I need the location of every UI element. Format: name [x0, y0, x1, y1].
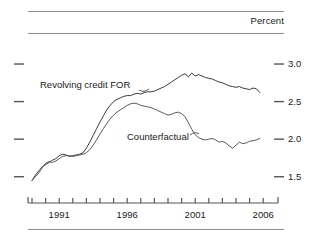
y-axis-tick-label: 3.0: [288, 59, 301, 69]
y-axis-right-ticks: [274, 64, 284, 177]
annotation-leader-lines: [139, 89, 199, 135]
y-axis-tick-label: 2.0: [288, 134, 301, 144]
y-axis-tick-label: 2.5: [288, 97, 301, 107]
x-axis-tick-label: 2006: [253, 210, 274, 220]
chart-figure: Percent 1.52.02.53.0 1991199620012006 Re…: [0, 0, 312, 244]
counterfactual-label: Counterfactual: [127, 131, 189, 142]
y-axis-tick-label: 1.5: [288, 172, 301, 182]
y-axis-left-ticks: [14, 64, 24, 177]
x-axis-tick-label: 1996: [117, 210, 138, 220]
footer-rule: [28, 229, 284, 230]
x-axis: [28, 197, 278, 203]
plot-area: [0, 0, 312, 244]
x-axis-tick-label: 1991: [49, 210, 70, 220]
x-axis-tick-label: 2001: [185, 210, 206, 220]
revolving-credit-label: Revolving credit FOR: [40, 79, 130, 90]
